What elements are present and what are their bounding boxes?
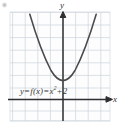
x-axis-label: x <box>113 94 117 104</box>
equation-fx: f(x) <box>30 86 43 96</box>
graph-figure: y x y=f(x)=x2+2 <box>0 0 121 128</box>
parabola-curve <box>0 0 121 128</box>
function-curve <box>30 14 96 80</box>
y-axis-label: y <box>60 0 64 10</box>
equation-constant: 2 <box>63 86 68 96</box>
function-equation-label: y=f(x)=x2+2 <box>20 83 67 96</box>
